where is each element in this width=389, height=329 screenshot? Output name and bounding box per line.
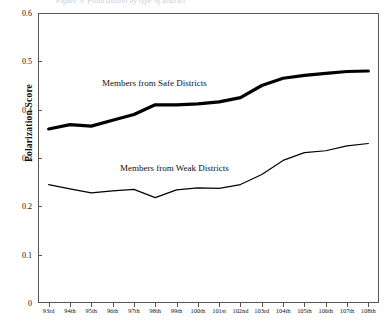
y-tick-label: 0 (6, 299, 32, 308)
x-tick-mark (347, 303, 348, 307)
x-tick-label: 101st (212, 307, 226, 314)
x-tick-label: 98th (150, 307, 161, 314)
y-axis-title: Polarization Score (24, 48, 34, 198)
x-tick-label: 94th (64, 307, 75, 314)
x-tick-mark (326, 303, 327, 307)
x-tick-mark (155, 303, 156, 307)
x-tick-label: 103rd (254, 307, 269, 314)
x-tick-label: 105th (297, 307, 312, 314)
x-tick-mark (134, 303, 135, 307)
x-tick-label: 106th (318, 307, 333, 314)
x-tick-mark (49, 303, 50, 307)
x-tick-label: 102nd (232, 307, 248, 314)
x-tick-label: 95th (86, 307, 97, 314)
series-annotation-safe-districts: Members from Safe Districts (102, 78, 207, 88)
x-tick-label: 93rd (43, 307, 55, 314)
y-tick-label: 0.2 (6, 202, 32, 211)
y-tick-mark (38, 110, 42, 111)
x-tick-label: 100th (191, 307, 206, 314)
polarization-line-chart: Figure 3. Polarization by type of distri… (0, 0, 389, 329)
y-tick-label: 0.3 (6, 154, 32, 163)
x-tick-label: 108th (361, 307, 376, 314)
y-tick-mark (38, 61, 42, 62)
y-tick-mark (38, 158, 42, 159)
x-tick-mark (219, 303, 220, 307)
y-tick-mark (38, 206, 42, 207)
y-tick-label: 0.5 (6, 57, 32, 66)
x-tick-mark (304, 303, 305, 307)
x-tick-mark (177, 303, 178, 307)
x-tick-mark (113, 303, 114, 307)
x-tick-label: 99th (171, 307, 182, 314)
clipped-figure-caption: Figure 3. Polarization by type of distri… (56, 0, 276, 5)
x-tick-mark (368, 303, 369, 307)
series-annotation-weak-districts: Members from Weak Districts (120, 163, 229, 173)
y-tick-mark (38, 255, 42, 256)
x-tick-mark (70, 303, 71, 307)
y-tick-label: 0.1 (6, 250, 32, 259)
y-tick-label: 0.4 (6, 105, 32, 114)
y-tick-label: 0.6 (6, 9, 32, 18)
x-tick-label: 96th (107, 307, 118, 314)
x-tick-label: 107th (340, 307, 355, 314)
x-tick-mark (283, 303, 284, 307)
x-tick-mark (262, 303, 263, 307)
x-tick-label: 104th (276, 307, 291, 314)
plot-area-frame (38, 13, 379, 303)
x-tick-mark (240, 303, 241, 307)
x-tick-mark (91, 303, 92, 307)
x-tick-label: 97th (128, 307, 139, 314)
x-tick-mark (198, 303, 199, 307)
